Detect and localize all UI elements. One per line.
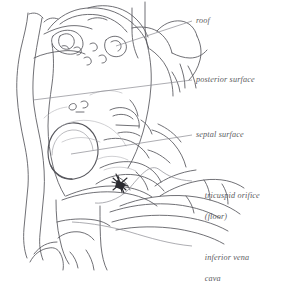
fan-rib-c (186, 196, 194, 213)
upper-node-right (105, 36, 127, 56)
label-septal-surface: septal surface (196, 130, 244, 141)
septal-fold-a (110, 108, 139, 128)
tricuspid-upper-rim (100, 162, 161, 182)
ivc-left-edge (56, 200, 69, 264)
ivc-lobe-edge (60, 253, 63, 270)
right-strand-c (148, 150, 170, 163)
left-vessel-top (29, 13, 43, 18)
leader-lines-group (33, 21, 192, 246)
label-tricuspid-orifice-line2: (floor) (205, 212, 227, 221)
septal-fold-f (130, 100, 138, 116)
label-roof: roof (196, 16, 210, 27)
septal-fold-c (116, 125, 139, 126)
right-flap-top (132, 27, 172, 53)
leader-septal-surface (71, 135, 192, 154)
left-vessel-edge (17, 13, 29, 258)
small-opening-a (69, 104, 76, 111)
septal-fold-e (104, 138, 149, 158)
fossa-ovalis-limbus (51, 166, 72, 179)
right-vein-a (180, 64, 185, 88)
label-inferior-vena-cava-line2: cava (205, 274, 221, 283)
right-strut-b (145, 2, 149, 49)
right-flap-upper (157, 21, 197, 36)
septal-fold-d (118, 132, 140, 136)
label-inferior-vena-cava-line1: inferior vena (205, 253, 249, 262)
small-opening-b (81, 101, 88, 108)
ivc-lower-fold (58, 232, 94, 240)
roof-outline (48, 8, 146, 40)
ivc-lobe-edge-c (86, 250, 94, 270)
label-tricuspid-orifice: tricuspid orifice (floor) (196, 180, 260, 233)
septal-fold-b (113, 114, 133, 119)
label-posterior-surface: posterior surface (196, 75, 255, 86)
pectinate-ridge-4 (99, 55, 106, 63)
right-strut-a (132, 8, 138, 58)
chamber-right-border (128, 40, 151, 168)
roof-upper-edge (88, 6, 148, 37)
tricuspid-mid-rim (96, 174, 164, 191)
notch-b (88, 18, 107, 20)
pectinate-ridge-3 (84, 57, 91, 65)
ivc-left-lobe (30, 248, 60, 262)
ivc-right-edge (100, 206, 107, 270)
upper-node-left-inner (59, 34, 75, 50)
right-descending-edge (150, 49, 173, 96)
pectinate-ridge-2 (90, 43, 97, 51)
label-inferior-vena-cava: inferior vena cava (196, 242, 249, 285)
right-flap-lower (172, 50, 207, 58)
leader-inferior-vena-cava (72, 222, 192, 246)
ivc-valve-rim (57, 219, 110, 226)
leader-posterior-surface (33, 80, 192, 100)
roof-inner-outline (60, 14, 127, 32)
leader-roof (116, 21, 192, 46)
label-tricuspid-orifice-line1: tricuspid orifice (205, 191, 260, 200)
ivc-lobe-edge-b (70, 252, 78, 268)
faint-trabeculae (44, 91, 136, 171)
